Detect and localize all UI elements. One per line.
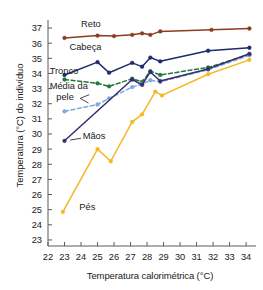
x-tick-label: 26 (109, 252, 119, 262)
data-point (148, 70, 152, 74)
series-annotation-label: Mãos (83, 131, 106, 141)
x-tick-label: 31 (191, 252, 201, 262)
annotation-leader-line (80, 98, 88, 103)
data-point (96, 81, 100, 85)
annotation-leader-line (70, 138, 81, 140)
data-point (160, 94, 164, 98)
x-axis-title: Temperatura calorimétrica (°C) (40, 270, 260, 281)
data-point (96, 60, 100, 64)
y-tick-label: 32 (32, 99, 42, 109)
line-chart-plot: 232425262728293031323334353637 222324252… (0, 0, 263, 290)
data-point (148, 33, 152, 37)
data-point (112, 34, 116, 38)
data-point (130, 33, 134, 37)
data-point (63, 36, 67, 40)
data-point (130, 120, 134, 124)
data-point (140, 31, 144, 35)
series-annotation-label: Pés (79, 202, 95, 212)
series-annotation-label: pele (56, 92, 74, 102)
data-point (153, 90, 157, 94)
data-point (158, 79, 162, 83)
y-axis-ticks: 232425262728293031323334353637 (32, 23, 52, 245)
y-tick-label: 27 (32, 175, 42, 185)
data-point (158, 73, 162, 77)
x-tick-label: 23 (59, 252, 69, 262)
y-tick-label: 28 (32, 160, 42, 170)
axis-lines (48, 20, 256, 246)
series-m-os (63, 52, 252, 143)
series-line (65, 29, 250, 38)
annotation-leader-line (80, 95, 89, 99)
data-point (210, 28, 214, 32)
x-axis-ticks: 22232425262728293031323334 (43, 242, 251, 262)
x-tick-label: 33 (224, 252, 234, 262)
y-tick-label: 36 (32, 39, 42, 49)
data-point (107, 84, 111, 88)
x-tick-label: 22 (43, 252, 53, 262)
y-tick-label: 35 (32, 54, 42, 64)
data-point (96, 34, 100, 38)
data-point (158, 29, 162, 33)
y-tick-label: 31 (32, 114, 42, 124)
series-annotation-label: Média da (50, 81, 89, 91)
series-tronco (63, 53, 252, 89)
data-point (140, 83, 144, 87)
data-point (148, 78, 152, 82)
x-tick-label: 29 (158, 252, 168, 262)
data-point (130, 61, 134, 65)
data-point (206, 72, 210, 76)
x-tick-label: 27 (125, 252, 135, 262)
y-tick-label: 29 (32, 145, 42, 155)
x-tick-label: 28 (142, 252, 152, 262)
data-point (206, 67, 210, 71)
series-annotation-label: Cabeça (69, 42, 102, 52)
data-series-group (61, 27, 251, 214)
chart-figure: Temperatura (°C) do indivíduo Temperatur… (0, 0, 263, 290)
data-point (63, 139, 67, 143)
data-point (96, 147, 100, 151)
series-annotations: RetoCabeçaTroncoMédia dapeleMãosPés (50, 19, 106, 211)
data-point (248, 46, 252, 50)
y-tick-label: 30 (32, 129, 42, 139)
data-point (248, 52, 252, 56)
data-point (140, 65, 144, 69)
data-point (109, 159, 113, 163)
y-tick-label: 23 (32, 235, 42, 245)
series-annotation-label: Tronco (50, 66, 79, 76)
x-tick-label: 32 (208, 252, 218, 262)
data-point (206, 49, 210, 53)
data-point (107, 71, 111, 75)
y-tick-label: 26 (32, 190, 42, 200)
data-point (63, 109, 67, 113)
data-point (248, 27, 252, 31)
series-line (65, 54, 250, 141)
data-point (96, 103, 100, 107)
x-tick-label: 24 (76, 252, 86, 262)
data-point (248, 58, 252, 62)
y-tick-label: 25 (32, 205, 42, 215)
series-annotation-label: Reto (81, 19, 101, 29)
y-tick-label: 37 (32, 23, 42, 33)
x-tick-label: 34 (241, 252, 251, 262)
data-point (140, 112, 144, 116)
y-tick-label: 24 (32, 220, 42, 230)
y-tick-label: 34 (32, 69, 42, 79)
data-point (130, 78, 134, 82)
x-tick-label: 30 (175, 252, 185, 262)
data-point (158, 59, 162, 63)
y-tick-label: 33 (32, 84, 42, 94)
data-point (130, 85, 134, 89)
data-point (61, 210, 65, 214)
y-axis-title: Temperatura (°C) do indivíduo (14, 11, 25, 241)
x-tick-label: 25 (92, 252, 102, 262)
data-point (148, 56, 152, 60)
